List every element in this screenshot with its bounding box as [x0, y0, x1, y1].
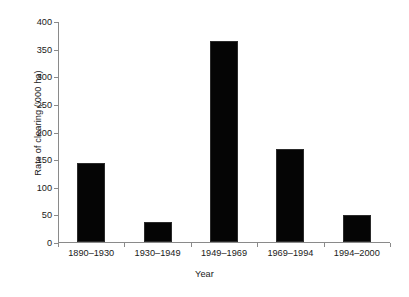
x-tick-label-1994–2000: 1994–2000 [334, 248, 380, 258]
x-tick-mark [191, 243, 192, 247]
bar-1994–2000 [343, 215, 371, 242]
bar-1890–1930 [77, 163, 105, 242]
y-tick-label: 200 [37, 128, 52, 138]
x-tick-label-1930–1949: 1930–1949 [135, 248, 181, 258]
x-tick-mark [390, 243, 391, 247]
x-tick-label-1949–1969: 1949–1969 [201, 248, 247, 258]
y-tick-label: 250 [37, 100, 52, 110]
x-tick-mark [58, 243, 59, 247]
plot-area: 050100150200250300350400 [58, 22, 390, 243]
x-tick-mark [124, 243, 125, 247]
x-axis-line [58, 242, 390, 243]
y-tick-mark [54, 77, 58, 78]
y-tick-mark [54, 50, 58, 51]
y-tick-mark [54, 105, 58, 106]
y-tick-label: 300 [37, 72, 52, 82]
x-axis-title: Year [0, 269, 409, 279]
x-tick-mark [324, 243, 325, 247]
bar-1949–1969 [210, 41, 238, 242]
bar-chart-figure: Rate of clearing ('000 ha) 0501001502002… [0, 0, 409, 297]
y-tick-label: 0 [47, 238, 52, 248]
y-tick-label: 100 [37, 183, 52, 193]
y-tick-mark [54, 188, 58, 189]
y-tick-label: 150 [37, 155, 52, 165]
y-tick-mark [54, 133, 58, 134]
y-tick-mark [54, 215, 58, 216]
y-tick-mark [54, 160, 58, 161]
bar-1930–1949 [144, 222, 172, 242]
y-tick-label: 50 [42, 210, 52, 220]
y-tick-label: 350 [37, 45, 52, 55]
y-tick-label: 400 [37, 17, 52, 27]
x-tick-label-1890–1930: 1890–1930 [68, 248, 114, 258]
y-axis-line [58, 22, 59, 243]
bar-1969–1994 [276, 149, 304, 242]
y-tick-mark [54, 22, 58, 23]
x-tick-mark [257, 243, 258, 247]
x-tick-label-1969–1994: 1969–1994 [267, 248, 313, 258]
